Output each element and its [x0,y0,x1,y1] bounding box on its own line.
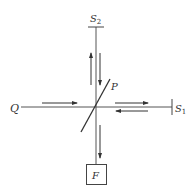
label-p: P [110,81,118,92]
label-s2: S2 [90,13,101,26]
label-s1: S1 [175,103,186,116]
optical-diagram: Q P S2 S1 F [0,0,193,195]
label-f: F [91,170,100,181]
label-q: Q [10,102,19,115]
